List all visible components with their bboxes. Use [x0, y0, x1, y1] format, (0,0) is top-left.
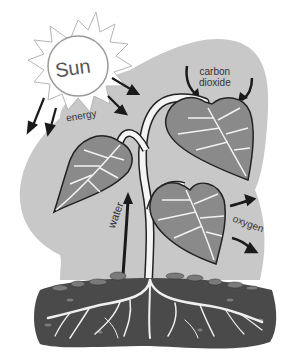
- photosynthesis-diagram: Sun energy carbon dioxide water oxygen: [0, 0, 296, 364]
- carbon-dioxide-label-line2: dioxide: [199, 77, 231, 88]
- carbon-dioxide-label-line1: carbon: [199, 66, 231, 77]
- sun-label: Sun: [54, 56, 92, 81]
- diagram-canvas: [0, 0, 296, 364]
- carbon-dioxide-label: carbon dioxide: [199, 66, 231, 88]
